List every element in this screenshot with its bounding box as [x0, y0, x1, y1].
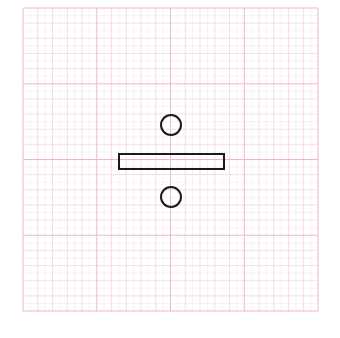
graph-paper-diagram — [0, 0, 340, 338]
division-bar — [119, 154, 224, 169]
graph-paper-grid — [23, 8, 318, 311]
